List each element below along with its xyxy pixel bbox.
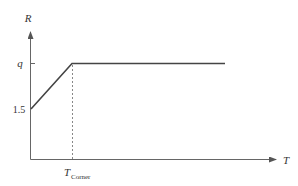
r-curve xyxy=(31,64,225,110)
diagram-canvas: R T q 1.5 T Corner xyxy=(0,0,298,186)
x-axis-label: T xyxy=(283,154,290,166)
y-tick-label-q: q xyxy=(17,57,23,69)
svg-text:T: T xyxy=(64,166,71,178)
x-tick-label-t-corner: T Corner xyxy=(64,166,91,181)
y-tick-label-1-5: 1.5 xyxy=(13,104,26,115)
svg-text:Corner: Corner xyxy=(71,173,91,181)
y-axis-label: R xyxy=(24,12,32,24)
